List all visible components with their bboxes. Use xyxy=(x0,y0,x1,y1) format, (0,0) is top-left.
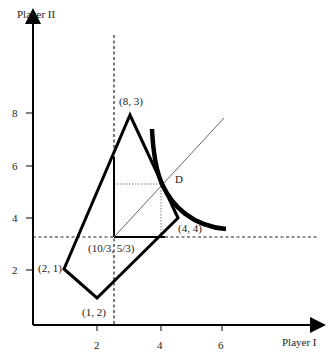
diagram-canvas: 8 6 4 2 2 4 6 Player II Player I (8, 3) … xyxy=(0,0,333,362)
y-ticks xyxy=(26,113,33,270)
disagreement-point-label: (10/3, 5/3) xyxy=(88,242,135,255)
vertex-label-bottom: (1, 2) xyxy=(82,306,106,319)
vertex-label-left: (2, 1) xyxy=(38,262,62,275)
x-axis-label: Player I xyxy=(282,336,317,348)
vertex-label-top: (8, 3) xyxy=(119,95,143,108)
vertex-label-right: (4, 4) xyxy=(178,222,202,235)
solution-point-label: D xyxy=(175,173,183,185)
y-axis-label: Player II xyxy=(17,8,56,20)
x-tick-label-4: 4 xyxy=(157,339,163,351)
x-tick-label-6: 6 xyxy=(218,339,224,351)
y-tick-label-8: 8 xyxy=(12,107,18,119)
y-tick-label-4: 4 xyxy=(12,212,18,224)
y-tick-label-2: 2 xyxy=(12,264,18,276)
y-tick-label-6: 6 xyxy=(12,160,18,172)
x-tick-label-2: 2 xyxy=(94,339,100,351)
hyperbola-curve xyxy=(152,129,226,229)
diagonal-line xyxy=(114,118,224,237)
